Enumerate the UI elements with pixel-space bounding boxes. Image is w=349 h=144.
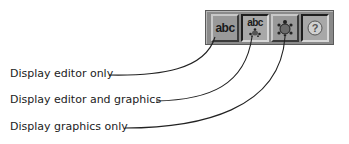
callout-display-graphics-only: Display graphics only bbox=[10, 120, 128, 133]
callout-display-editor-only: Display editor only bbox=[10, 67, 113, 80]
callout-display-editor-and-graphics: Display editor and graphics bbox=[10, 93, 161, 106]
